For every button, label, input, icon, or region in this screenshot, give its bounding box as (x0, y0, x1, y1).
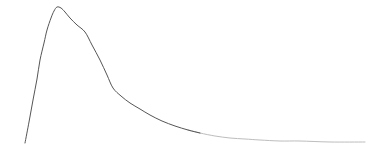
plot-area (0, 0, 380, 153)
chart-figure: right-skewed density curve probability d… (0, 0, 380, 153)
